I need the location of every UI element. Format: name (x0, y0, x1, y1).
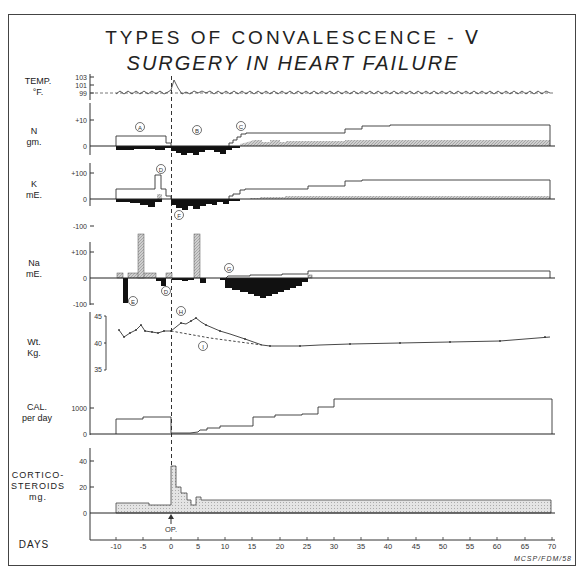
svg-text:0: 0 (83, 510, 87, 517)
svg-text:45: 45 (94, 313, 102, 320)
svg-text:-10: -10 (111, 542, 122, 551)
svg-text:60: 60 (493, 542, 501, 551)
svg-text:40: 40 (79, 458, 87, 465)
svg-text:A: A (138, 125, 142, 131)
weight-panel: 45 40 35 H I (90, 307, 550, 393)
svg-text:OP.: OP. (165, 525, 177, 534)
svg-text:50: 50 (439, 542, 447, 551)
label-A: A (136, 123, 145, 132)
svg-text:1000: 1000 (71, 405, 87, 412)
svg-text:+100: +100 (71, 249, 87, 256)
svg-text:65: 65 (521, 542, 529, 551)
svg-text:0: 0 (83, 275, 87, 282)
svg-text:+10: +10 (75, 117, 87, 124)
svg-text:0: 0 (83, 143, 87, 150)
svg-text:99: 99 (79, 90, 87, 97)
svg-text:B: B (195, 128, 199, 134)
svg-text:D: D (159, 167, 164, 173)
label-I: I (199, 342, 208, 351)
svg-text:103: 103 (75, 74, 87, 81)
svg-text:70: 70 (548, 542, 556, 551)
svg-text:E: E (131, 299, 135, 305)
svg-text:-100: -100 (73, 301, 87, 308)
label-H: H (177, 307, 186, 316)
svg-text:35: 35 (94, 366, 102, 373)
svg-text:F: F (177, 213, 181, 219)
svg-text:45: 45 (412, 542, 420, 551)
svg-text:0: 0 (83, 196, 87, 203)
label-D-na: D (162, 287, 171, 296)
label-F: F (175, 211, 184, 220)
svg-text:D: D (164, 289, 169, 295)
svg-text:+100: +100 (71, 170, 87, 177)
svg-text:-100: -100 (73, 223, 87, 230)
svg-text:55: 55 (466, 542, 474, 551)
svg-text:H: H (179, 309, 183, 315)
svg-text:10: 10 (221, 542, 229, 551)
label-B: B (193, 126, 202, 135)
days-axis: -10 -5 0 5 10 15 20 25 30 35 40 45 50 55… (90, 537, 556, 551)
label-E: E (129, 297, 138, 306)
svg-text:20: 20 (79, 484, 87, 491)
chart-canvas: 103 101 99 +10 0 A B C +100 0 -100 (0, 0, 586, 574)
svg-text:C: C (239, 124, 244, 130)
svg-text:30: 30 (330, 542, 338, 551)
svg-text:G: G (227, 266, 232, 272)
svg-text:0: 0 (83, 431, 87, 438)
svg-text:40: 40 (94, 340, 102, 347)
svg-text:35: 35 (357, 542, 365, 551)
potassium-panel: +100 0 -100 D F (71, 163, 555, 230)
svg-text:5: 5 (196, 542, 200, 551)
svg-text:25: 25 (303, 542, 311, 551)
sodium-panel: +100 0 -100 E D G (71, 234, 555, 308)
svg-text:40: 40 (384, 542, 392, 551)
corticosteroids-panel: 40 20 0 OP. (79, 448, 555, 540)
svg-text:-5: -5 (140, 542, 147, 551)
calories-panel: 1000 0 (71, 392, 555, 438)
nitrogen-panel: +10 0 A B C (75, 103, 555, 155)
label-D-k: D (157, 165, 166, 174)
svg-text:101: 101 (75, 82, 87, 89)
svg-text:15: 15 (248, 542, 256, 551)
svg-text:20: 20 (276, 542, 284, 551)
label-C: C (237, 122, 246, 131)
label-G: G (225, 264, 234, 273)
temp-panel: 103 101 99 (75, 74, 555, 100)
svg-text:0: 0 (169, 542, 173, 551)
